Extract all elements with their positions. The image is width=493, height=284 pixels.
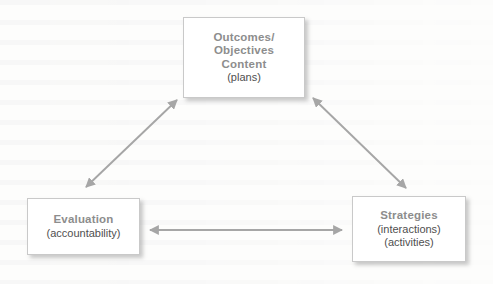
- node-evaluation[interactable]: Evaluation (accountability): [27, 198, 140, 255]
- node-evaluation-title: Evaluation: [53, 213, 113, 227]
- node-outcomes-title-line3: Content: [222, 58, 267, 72]
- node-strategies[interactable]: Strategies (interactions) (activities): [352, 196, 466, 262]
- node-outcomes-title-line2: Objectives: [214, 44, 274, 58]
- node-strategies-subtitle-interactions: (interactions): [377, 223, 441, 236]
- node-outcomes-subtitle-plans: (plans): [227, 71, 261, 84]
- node-evaluation-subtitle-accountability: (accountability): [47, 227, 121, 240]
- node-strategies-subtitle-activities: (activities): [384, 236, 434, 249]
- diagram-canvas: Outcomes/ Objectives Content (plans) Eva…: [0, 0, 493, 284]
- node-outcomes-objectives-content[interactable]: Outcomes/ Objectives Content (plans): [183, 17, 305, 98]
- connector-evaluation-outcomes: [86, 100, 177, 187]
- node-outcomes-title-line1: Outcomes/: [213, 31, 274, 45]
- connector-outcomes-strategies: [313, 98, 406, 188]
- node-strategies-title: Strategies: [380, 209, 438, 223]
